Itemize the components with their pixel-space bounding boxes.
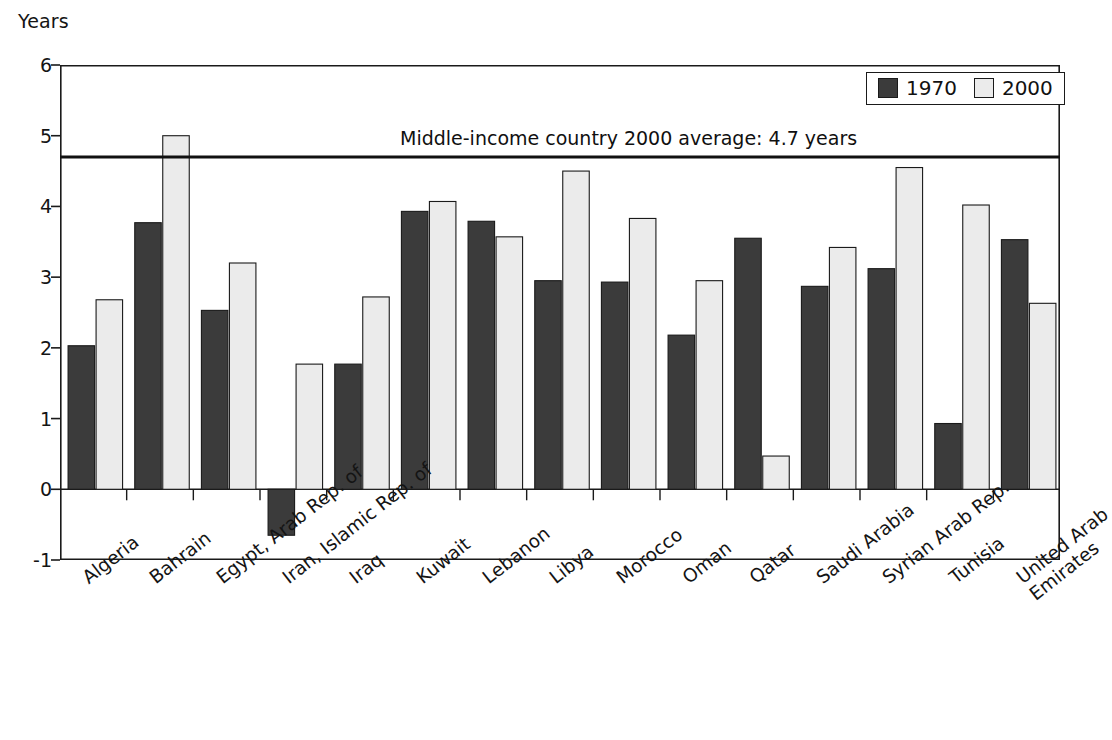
bar [696, 281, 723, 490]
y-axis-tick-label: 1 [18, 408, 52, 430]
y-axis-tick-label: 5 [18, 125, 52, 147]
bar [563, 171, 590, 489]
bar-series-group [68, 136, 1056, 536]
bar [96, 300, 123, 490]
legend-label-2000: 2000 [1002, 78, 1053, 98]
bar [163, 136, 190, 490]
bar [829, 247, 856, 489]
bar [201, 310, 228, 489]
average-line-annotation: Middle-income country 2000 average: 4.7 … [400, 127, 857, 149]
bar [535, 281, 562, 490]
legend-item-2000: 2000 [974, 78, 1053, 98]
bar [496, 237, 522, 489]
y-axis-tick-label: 6 [18, 54, 52, 76]
bar [135, 223, 162, 490]
bar [868, 269, 895, 490]
legend-swatch-2000 [974, 78, 994, 98]
bar [468, 221, 495, 489]
bar [229, 263, 256, 489]
bar [363, 297, 390, 489]
bar [935, 424, 962, 490]
bar [763, 456, 790, 489]
bar [896, 168, 923, 490]
bar [296, 364, 323, 489]
y-axis-tick-label: 3 [18, 266, 52, 288]
bar [401, 211, 428, 489]
bar [735, 238, 762, 489]
bar [668, 335, 695, 489]
y-axis-tick-label: -1 [18, 549, 52, 571]
bar [1001, 240, 1027, 490]
y-axis-tick-label: 0 [18, 478, 52, 500]
y-axis-tick-labels: -10123456 [0, 0, 52, 740]
legend-item-1970: 1970 [878, 78, 957, 98]
bar [1029, 303, 1056, 489]
bar [429, 201, 456, 489]
legend-label-1970: 1970 [906, 78, 957, 98]
bar [963, 205, 990, 489]
bar [68, 346, 95, 490]
bar [601, 282, 628, 489]
y-axis-tick-label: 2 [18, 337, 52, 359]
y-axis-ticks [51, 65, 60, 560]
chart-legend: 1970 2000 [866, 72, 1065, 105]
bar [801, 286, 828, 489]
bar [629, 218, 656, 489]
y-axis-tick-label: 4 [18, 195, 52, 217]
legend-swatch-1970 [878, 78, 898, 98]
